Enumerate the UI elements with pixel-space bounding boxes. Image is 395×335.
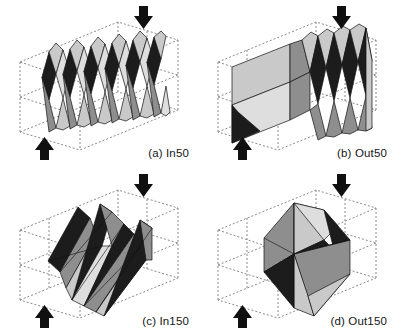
load-arrow-top [134,6,153,29]
load-arrow-top [332,174,351,197]
panel-in50: (a) In50 [0,0,197,167]
panel-caption-in150: (c) In150 [142,315,189,327]
panel-out150: (d) Out150 [198,168,395,335]
folded-sheet [264,203,350,316]
load-arrow-bottom [35,305,54,328]
load-arrow-bottom [35,137,54,160]
panel-caption-in50: (a) In50 [148,147,189,159]
panel-out150-graphic [198,168,395,335]
panel-in50-graphic [0,0,197,167]
load-arrow-top [332,6,351,29]
folded-sheet [42,31,170,132]
folded-sheet [48,204,152,316]
figure-root: (a) In50 [0,0,395,335]
panel-in150-graphic [0,168,197,335]
panel-in150: (c) In150 [0,168,197,335]
panel-caption-out150: (d) Out150 [331,315,387,327]
panel-out50: (b) Out50 [198,0,395,167]
panel-caption-out50: (b) Out50 [337,147,387,159]
load-arrow-bottom [233,305,252,328]
folded-sheet [232,24,372,143]
load-arrow-top [134,174,153,197]
panel-out50-graphic [198,0,395,167]
